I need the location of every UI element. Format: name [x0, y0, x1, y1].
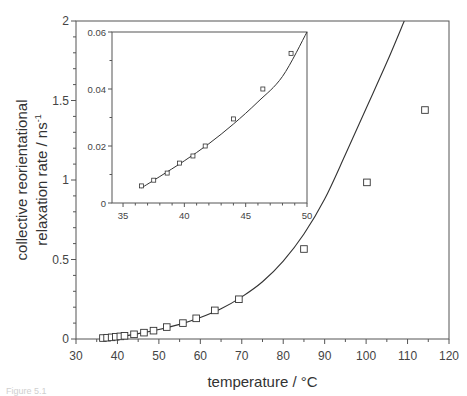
- data-point-square: [150, 327, 157, 334]
- y-tick-label: 1.5: [52, 94, 69, 108]
- data-point-square: [163, 324, 170, 331]
- inset-data-point-square: [165, 171, 169, 175]
- inset-x-tick-label: 40: [179, 210, 190, 221]
- y-tick-label: 0.5: [52, 253, 69, 267]
- inset-data-point-square: [177, 161, 181, 165]
- x-tick-label: 40: [111, 349, 125, 363]
- figure-caption: Figure 5.1: [6, 386, 47, 396]
- y-axis-title-line2: relaxation rate / ns-1: [33, 114, 50, 245]
- data-point-square: [131, 331, 138, 338]
- main-y-axis: 00.511.52: [52, 14, 76, 346]
- data-point-square: [212, 307, 219, 314]
- main-x-axis: 30405060708090100110120: [69, 339, 459, 363]
- data-point-square: [301, 246, 308, 253]
- data-point-square: [141, 329, 148, 336]
- data-point-square: [422, 107, 429, 114]
- data-point-square: [180, 320, 187, 327]
- y-axis-title-line1: collective reorientational: [13, 100, 30, 261]
- inset-x-tick-label: 50: [302, 210, 313, 221]
- inset-data-point-square: [191, 154, 195, 158]
- y-axis-title-superscript: -1: [33, 114, 43, 122]
- chart-canvas: 3040506070809010011012000.511.52temperat…: [0, 0, 467, 396]
- inset-plot: 3540455000.020.040.06: [88, 27, 313, 222]
- inset-y-tick-label: 0.04: [88, 84, 107, 95]
- x-tick-label: 110: [398, 349, 417, 363]
- data-point-square: [121, 333, 128, 340]
- inset-x-tick-label: 45: [240, 210, 251, 221]
- x-tick-label: 90: [318, 349, 332, 363]
- inset-x-axis: 35404550: [118, 203, 313, 221]
- data-point-square: [364, 179, 371, 186]
- inset-data-point-square: [289, 51, 293, 55]
- inset-data-point-square: [203, 144, 207, 148]
- inset-data-point-square: [261, 87, 265, 91]
- y-tick-label: 1: [62, 173, 69, 187]
- x-tick-label: 80: [277, 349, 291, 363]
- inset-data-point-square: [231, 117, 235, 121]
- x-tick-label: 50: [152, 349, 166, 363]
- inset-data-point-square: [139, 184, 143, 188]
- y-tick-label: 2: [62, 14, 69, 28]
- y-tick-label: 0: [62, 332, 69, 346]
- inset-y-tick-label: 0.06: [88, 27, 107, 38]
- inset-y-tick-label: 0: [101, 198, 106, 209]
- data-point-square: [236, 296, 243, 303]
- data-point-square: [193, 315, 200, 322]
- x-axis-title: temperature / °C: [207, 373, 317, 390]
- inset-data-point-square: [152, 178, 156, 182]
- x-tick-label: 30: [69, 349, 83, 363]
- x-tick-label: 100: [356, 349, 376, 363]
- inset-plot-frame: [112, 32, 307, 203]
- x-tick-label: 70: [235, 349, 249, 363]
- x-tick-label: 60: [194, 349, 208, 363]
- inset-y-axis: 00.020.040.06: [88, 27, 113, 209]
- inset-y-tick-label: 0.02: [88, 141, 107, 152]
- inset-x-tick-label: 35: [118, 210, 129, 221]
- x-tick-label: 120: [439, 349, 459, 363]
